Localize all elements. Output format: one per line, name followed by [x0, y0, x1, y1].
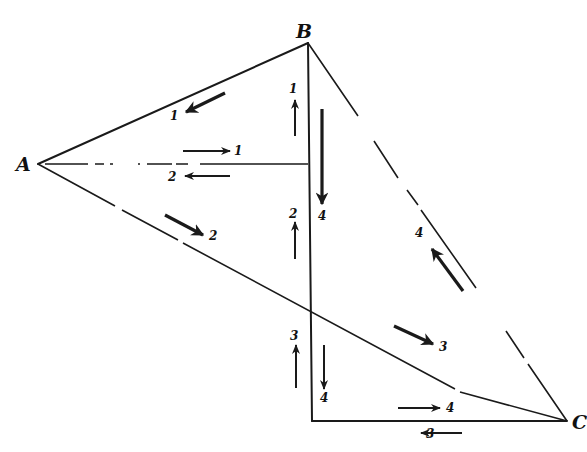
vertex-labels: A B C: [14, 20, 587, 433]
label-bc-up: 4: [415, 226, 423, 240]
label-vertical-mid-up: 2: [288, 207, 297, 221]
label-horizontal-left: 2: [167, 170, 176, 184]
force-arrows: [165, 93, 463, 433]
vertex-label-c: C: [572, 411, 587, 433]
vertex-label-b: B: [295, 20, 312, 42]
label-vertical-lower-up: 3: [290, 329, 298, 343]
label-vertical-upper-up: 1: [289, 82, 297, 96]
vertex-label-a: A: [14, 153, 31, 175]
label-ac-lower: 3: [439, 340, 447, 354]
label-vertical-upper-down: 4: [318, 209, 326, 223]
truss-force-diagram: A B C 1 1 2 1 4 2 2 4 3 3 4 4 3: [0, 0, 587, 452]
label-bottom-right: 4: [446, 401, 454, 415]
label-bottom-left: 3: [426, 427, 434, 441]
structure-lines: [38, 43, 567, 421]
line-bc: [308, 43, 567, 421]
arrow-ac-upper: [165, 215, 203, 235]
line-ac: [38, 164, 567, 421]
label-ac-upper: 2: [208, 229, 217, 243]
label-ab-down: 1: [170, 109, 178, 123]
line-ab: [38, 43, 308, 164]
line-b-vertical: [308, 43, 312, 421]
label-vertical-lower-down: 4: [320, 391, 328, 405]
arrow-bc-up: [432, 249, 463, 291]
label-horizontal-right: 1: [234, 144, 242, 158]
arrow-ac-lower: [394, 326, 433, 344]
